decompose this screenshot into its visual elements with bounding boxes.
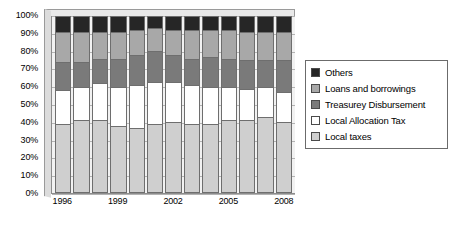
bar-segment[interactable] [129, 16, 145, 30]
bar-segment[interactable] [73, 87, 89, 121]
bar-series-group [52, 16, 295, 193]
bar-column[interactable] [129, 16, 145, 193]
bar-segment[interactable] [239, 60, 255, 88]
bar-column[interactable] [73, 16, 89, 193]
bar-column[interactable] [55, 16, 71, 193]
bar-segment[interactable] [110, 87, 126, 126]
bar-segment[interactable] [110, 59, 126, 87]
bar-segment[interactable] [202, 124, 218, 193]
bar-segment[interactable] [92, 16, 108, 32]
legend-item[interactable]: Treasurey Disbursement [311, 98, 443, 111]
bar-segment[interactable] [129, 128, 145, 193]
legend-swatch-treasurey-disbursement [311, 100, 320, 109]
bar-segment[interactable] [92, 32, 108, 59]
bar-segment[interactable] [129, 55, 145, 85]
bar-segment[interactable] [239, 89, 255, 121]
bar-segment[interactable] [73, 16, 89, 32]
y-axis-tick-label: 30% [21, 136, 38, 145]
legend-swatch-loans-and-borrowings [311, 84, 320, 93]
legend-item[interactable]: Others [311, 66, 443, 79]
chart-root: 0%10%20%30%40%50%60%70%80%90%100% 199619… [0, 0, 456, 231]
bar-segment[interactable] [184, 16, 200, 30]
y-axis-tick-label: 90% [21, 29, 38, 38]
gridline [52, 194, 295, 195]
bar-segment[interactable] [202, 30, 218, 57]
bar-segment[interactable] [147, 82, 163, 124]
bar-segment[interactable] [239, 120, 255, 193]
bar-segment[interactable] [55, 90, 71, 124]
bar-segment[interactable] [221, 87, 237, 121]
bar-segment[interactable] [165, 30, 181, 55]
bar-segment[interactable] [73, 32, 89, 62]
bar-segment[interactable] [276, 60, 292, 92]
bar-column[interactable] [110, 16, 126, 193]
bar-segment[interactable] [276, 122, 292, 193]
y-axis-tick-label: 100% [16, 11, 38, 20]
bar-segment[interactable] [165, 82, 181, 123]
bar-segment[interactable] [110, 126, 126, 193]
bar-column[interactable] [257, 16, 273, 193]
bar-segment[interactable] [202, 57, 218, 87]
legend-item[interactable]: Loans and borrowings [311, 82, 443, 95]
bar-segment[interactable] [184, 124, 200, 193]
bar-segment[interactable] [184, 59, 200, 86]
y-axis-tick-label: 40% [21, 118, 38, 127]
bar-segment[interactable] [239, 32, 255, 60]
bar-segment[interactable] [276, 32, 292, 60]
bar-segment[interactable] [110, 32, 126, 59]
bar-column[interactable] [184, 16, 200, 193]
bar-segment[interactable] [147, 124, 163, 193]
legend-item[interactable]: Local taxes [311, 130, 443, 143]
bar-segment[interactable] [165, 122, 181, 193]
bar-segment[interactable] [55, 62, 71, 90]
bar-segment[interactable] [129, 30, 145, 55]
bar-segment[interactable] [55, 124, 71, 193]
y-axis-tick-label: 70% [21, 64, 38, 73]
bar-segment[interactable] [165, 16, 181, 30]
bar-segment[interactable] [92, 83, 108, 120]
plot-container: 0%10%20%30%40%50%60%70%80%90%100% 199619… [0, 0, 300, 231]
bar-segment[interactable] [184, 85, 200, 124]
bar-column[interactable] [165, 16, 181, 193]
x-axis-tick-label: 1999 [108, 196, 127, 206]
plot-depth-face [44, 9, 51, 198]
bar-column[interactable] [239, 16, 255, 193]
bar-column[interactable] [221, 16, 237, 193]
bar-column[interactable] [202, 16, 218, 193]
x-axis: 19961999200220052008 [51, 196, 295, 214]
y-axis-tick-label: 50% [21, 100, 38, 109]
bar-segment[interactable] [257, 32, 273, 60]
bar-segment[interactable] [129, 85, 145, 127]
bar-segment[interactable] [276, 92, 292, 122]
bar-segment[interactable] [55, 32, 71, 62]
bar-segment[interactable] [147, 51, 163, 81]
bar-column[interactable] [276, 16, 292, 193]
bar-segment[interactable] [202, 87, 218, 124]
bar-segment[interactable] [221, 16, 237, 30]
bar-column[interactable] [147, 16, 163, 193]
bar-segment[interactable] [239, 16, 255, 32]
bar-segment[interactable] [92, 120, 108, 193]
bar-segment[interactable] [110, 16, 126, 32]
bar-segment[interactable] [257, 16, 273, 32]
bar-segment[interactable] [147, 28, 163, 51]
bar-segment[interactable] [257, 117, 273, 193]
bar-segment[interactable] [221, 30, 237, 58]
bar-segment[interactable] [92, 59, 108, 84]
bar-segment[interactable] [184, 30, 200, 58]
bar-segment[interactable] [55, 16, 71, 32]
bar-segment[interactable] [147, 16, 163, 28]
chart-legend: OthersLoans and borrowingsTreasurey Disb… [305, 60, 448, 149]
bar-segment[interactable] [73, 120, 89, 193]
bar-segment[interactable] [73, 62, 89, 87]
bar-segment[interactable] [221, 120, 237, 193]
legend-item-label: Loans and borrowings [325, 83, 415, 94]
bar-segment[interactable] [221, 59, 237, 87]
bar-segment[interactable] [165, 55, 181, 82]
bar-segment[interactable] [202, 16, 218, 30]
bar-segment[interactable] [257, 87, 273, 117]
bar-segment[interactable] [276, 16, 292, 32]
bar-column[interactable] [92, 16, 108, 193]
bar-segment[interactable] [257, 60, 273, 87]
legend-item[interactable]: Local Allocation Tax [311, 114, 443, 127]
